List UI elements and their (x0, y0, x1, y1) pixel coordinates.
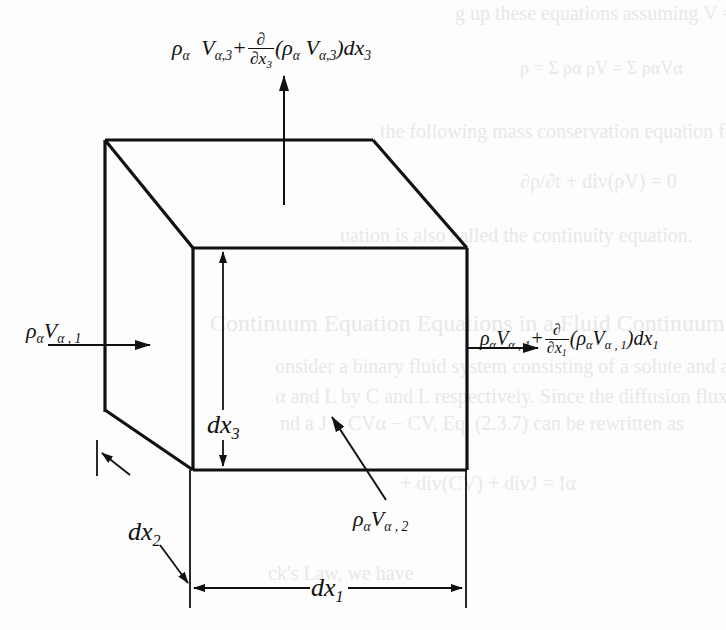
cube-outline (105, 140, 467, 470)
dx-symbol: dx (634, 327, 653, 349)
dx-symbol: dx (207, 410, 232, 439)
partial-derivative: ∂∂x3 (248, 30, 274, 71)
label-flux-x1-in: ραVα , 1 (26, 320, 81, 345)
paren-close: ) (627, 327, 634, 349)
subscript: 3 (364, 48, 371, 63)
rho-symbol: ρ (172, 35, 183, 60)
label-flux-x1-out: ραVα , 1+∂∂x1(ραVα , 1)dx1 (480, 322, 659, 359)
subscript: 3 (232, 425, 240, 442)
partial-denominator: ∂x3 (248, 49, 274, 70)
rho-symbol: ρ (576, 327, 586, 349)
rho-symbol: ρ (26, 318, 37, 343)
rho-symbol: ρ (480, 327, 490, 349)
subscript: α , 1 (508, 338, 530, 352)
label-dx3: dx3 (207, 412, 240, 442)
velocity-symbol: V (44, 318, 57, 343)
subscript: α,3 (215, 48, 232, 63)
rho-symbol: ρ (353, 506, 364, 531)
label-dx2: dx2 (128, 519, 161, 549)
label-flux-x2: ραVα , 2 (353, 508, 408, 533)
subscript: 2 (153, 532, 161, 549)
cube-edge-top-right-diagonal (373, 140, 467, 248)
velocity-symbol: V (593, 327, 605, 349)
velocity-symbol: V (371, 506, 384, 531)
subscript: α (293, 48, 300, 63)
label-dx1: dx1 (311, 575, 344, 605)
subscript: 1 (652, 338, 658, 352)
subscript: α (37, 331, 44, 346)
velocity-symbol: V (305, 35, 318, 60)
dx-symbol: dx (311, 573, 336, 602)
dim-dx2-lower (160, 545, 188, 583)
plus-sign: + (530, 327, 544, 349)
velocity-symbol: V (201, 35, 214, 60)
flux-x2-arrow (332, 417, 386, 500)
subscript: 1 (336, 588, 344, 605)
dx-symbol: dx (128, 517, 153, 546)
partial-numerator: ∂ (545, 322, 569, 340)
subscript: α , 1 (605, 338, 627, 352)
subscript: α,3 (319, 48, 336, 63)
paren-close: ) (336, 35, 343, 60)
subscript: α , 2 (384, 519, 408, 534)
rho-symbol: ρ (282, 35, 293, 60)
cube-edge-bottom-left-diagonal (105, 410, 193, 470)
cube-edge-top-left-diagonal (105, 140, 193, 248)
label-flux-x3-out: ρα Vα,3+∂∂x3(ρα Vα,3)dx3 (172, 30, 371, 71)
subscript: α , 1 (57, 331, 81, 346)
subscript: α (364, 519, 371, 534)
partial-derivative: ∂∂x1 (545, 322, 569, 359)
dim-dx2 (97, 440, 188, 583)
plus-sign: + (232, 35, 247, 60)
dim-dx2-upper (102, 453, 130, 475)
partial-denominator: ∂x1 (545, 340, 569, 359)
dx-symbol: dx (344, 35, 365, 60)
partial-numerator: ∂ (248, 30, 274, 49)
subscript: α (183, 48, 190, 63)
velocity-symbol: V (496, 327, 508, 349)
cube-diagram (0, 0, 726, 630)
